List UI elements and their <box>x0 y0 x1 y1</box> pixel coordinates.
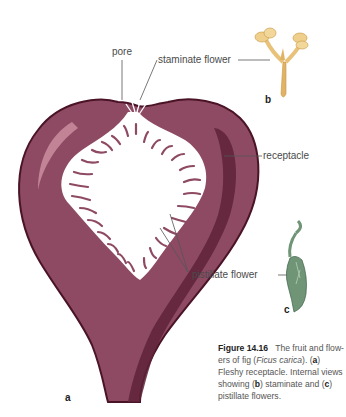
label-receptacle: receptacle <box>263 151 309 161</box>
fig-diagram: pore staminate flower receptacle pistill… <box>0 0 346 417</box>
label-staminate-flower: staminate flower <box>158 55 231 65</box>
panel-letter-c: c <box>284 305 290 315</box>
panel-letter-a: a <box>65 393 71 403</box>
caption-b-text: ) staminate and ( <box>260 379 324 389</box>
figure-number: Figure 14.16 <box>218 343 268 353</box>
label-pore: pore <box>112 47 132 57</box>
label-pistillate-flower: pistillate flower <box>192 270 258 280</box>
staminate-flower-drawing <box>255 28 308 97</box>
caption-after-species: ). ( <box>302 355 313 365</box>
panel-letter-b: b <box>265 95 271 105</box>
pistillate-flower-drawing <box>286 221 306 312</box>
caption-species: Ficus carica <box>256 355 302 365</box>
figure-caption: Figure 14.16 The fruit and flow-ers of f… <box>218 342 344 402</box>
